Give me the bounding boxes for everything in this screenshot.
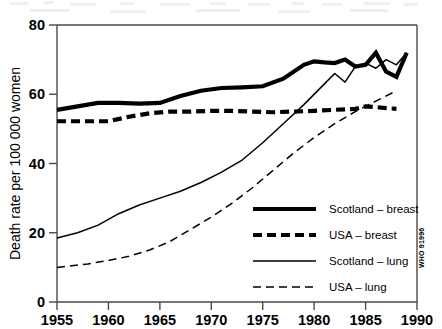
series-usa-breast — [57, 106, 396, 121]
y-tick-label: 20 — [29, 225, 45, 241]
y-tick-label: 80 — [29, 17, 45, 33]
x-tick-label: 1970 — [195, 312, 227, 328]
legend-label: USA – lung — [329, 281, 387, 293]
y-tick-label: 0 — [37, 294, 45, 310]
x-tick-label: 1975 — [247, 312, 279, 328]
y-axis-title: Death rate per 100 000 women — [7, 67, 23, 260]
line-chart: 80 60 40 20 0 1955 1960 1965 1970 1975 1… — [0, 0, 442, 329]
y-axis-ticks — [49, 25, 57, 302]
x-tick-label: 1965 — [144, 312, 176, 328]
chart-legend: Scotland – breast USA – breast Scotland … — [253, 203, 419, 293]
x-tick-label: 1955 — [41, 312, 73, 328]
legend-item-scotland-breast[interactable]: Scotland – breast — [253, 203, 419, 215]
x-axis-ticks — [57, 302, 417, 310]
legend-label: USA – breast — [329, 229, 398, 241]
who-credit-label: WHO 91996 — [418, 228, 425, 268]
x-tick-label: 1980 — [298, 312, 330, 328]
x-tick-label: 1990 — [401, 312, 433, 328]
x-tick-label: 1960 — [92, 312, 124, 328]
x-axis-tick-labels: 1955 1960 1965 1970 1975 1980 1985 1990 — [41, 312, 433, 328]
legend-label: Scotland – lung — [329, 255, 408, 267]
series-scotland-breast — [57, 53, 407, 110]
x-tick-label: 1985 — [349, 312, 381, 328]
y-axis-tick-labels: 80 60 40 20 0 — [29, 17, 45, 310]
y-tick-label: 60 — [29, 86, 45, 102]
legend-item-usa-breast[interactable]: USA – breast — [253, 229, 398, 241]
y-tick-label: 40 — [29, 156, 45, 172]
legend-item-scotland-lung[interactable]: Scotland – lung — [253, 255, 408, 267]
chart-figure: 80 60 40 20 0 1955 1960 1965 1970 1975 1… — [0, 0, 442, 329]
legend-label: Scotland – breast — [329, 203, 419, 215]
legend-item-usa-lung[interactable]: USA – lung — [253, 281, 387, 293]
